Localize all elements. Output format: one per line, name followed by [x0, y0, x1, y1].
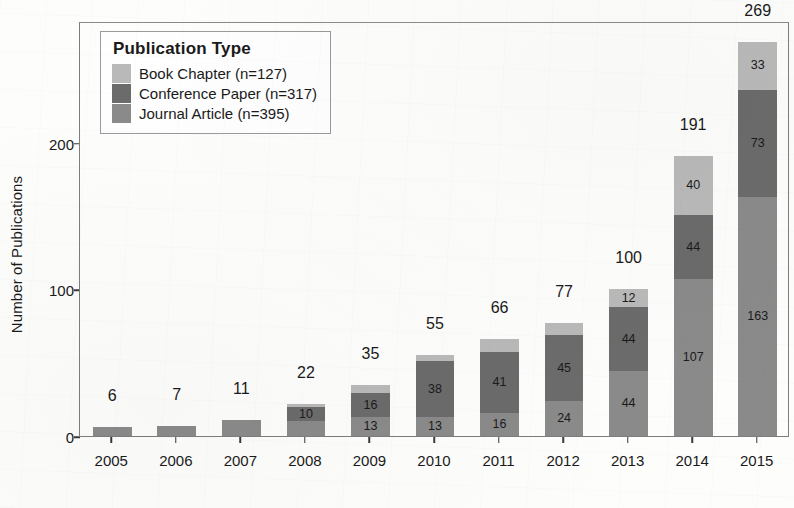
- x-tick-mark: [433, 437, 435, 443]
- bar-segment-conference[interactable]: 10: [287, 407, 326, 422]
- legend-item[interactable]: Journal Article (n=395): [112, 104, 317, 123]
- bar-segment-book[interactable]: [480, 339, 519, 352]
- x-tick-label: 2009: [353, 452, 386, 469]
- x-tick-label: 2007: [224, 452, 257, 469]
- bar-segment-value: 163: [747, 310, 768, 323]
- publication-type-stacked-bar-chart: Number of Publications 0100200 671110221…: [0, 0, 794, 508]
- bar-segment-journal[interactable]: 24: [545, 401, 584, 436]
- bar-segment-value: 107: [683, 351, 704, 364]
- legend-item-label: Book Chapter (n=127): [139, 65, 287, 82]
- bar-segment-conference[interactable]: 45: [545, 335, 584, 401]
- bar-group[interactable]: 1074440191: [674, 156, 713, 436]
- legend-swatch: [112, 104, 131, 123]
- x-tick-mark: [304, 437, 306, 443]
- bar-segment-conference[interactable]: 41: [480, 352, 519, 412]
- y-axis-title-label: Number of Publications: [9, 175, 26, 332]
- bar-segment-conference[interactable]: 44: [674, 215, 713, 280]
- bar-segment-book[interactable]: 33: [738, 42, 777, 90]
- bar-group[interactable]: 7: [157, 426, 196, 436]
- legend-item[interactable]: Conference Paper (n=317): [112, 84, 317, 103]
- bar-segment-value: 45: [557, 362, 571, 375]
- bar-segment-conference[interactable]: 38: [416, 361, 455, 417]
- y-tick-label: 0: [28, 429, 80, 446]
- legend-title: Publication Type: [113, 39, 317, 59]
- bar-group[interactable]: 131635: [351, 385, 390, 436]
- bar-total-label: 6: [108, 387, 117, 405]
- y-tick-label: 200: [28, 135, 80, 152]
- bar-total-label: 77: [555, 283, 573, 301]
- bar-segment-journal[interactable]: 44: [609, 371, 648, 436]
- bar-segment-journal[interactable]: [287, 421, 326, 436]
- bar-segment-journal[interactable]: [93, 427, 132, 436]
- x-axis-ticks: [79, 437, 789, 451]
- bar-segment-value: 13: [363, 420, 377, 433]
- legend-swatch: [112, 64, 131, 83]
- x-tick-label: 2008: [288, 452, 321, 469]
- bar-total-label: 35: [362, 345, 380, 363]
- bar-segment-journal[interactable]: [222, 420, 261, 436]
- bar-segment-value: 41: [493, 376, 507, 389]
- bar-total-label: 55: [426, 315, 444, 333]
- bar-segment-conference[interactable]: 16: [351, 393, 390, 416]
- x-tick-mark: [369, 437, 371, 443]
- x-tick-label: 2014: [675, 452, 708, 469]
- bar-segment-journal[interactable]: 163: [738, 197, 777, 436]
- bar-group[interactable]: 133855: [416, 355, 455, 436]
- x-tick-label: 2011: [482, 452, 514, 469]
- x-tick-label: 2013: [611, 452, 644, 469]
- bar-segment-value: 10: [299, 408, 313, 421]
- x-tick-mark: [756, 437, 758, 443]
- x-tick-label: 2006: [159, 452, 192, 469]
- bar-segment-book[interactable]: [287, 404, 326, 407]
- legend: Publication Type Book Chapter (n=127)Con…: [100, 31, 331, 134]
- bar-total-label: 7: [172, 386, 181, 404]
- bar-group[interactable]: 6: [93, 427, 132, 436]
- legend-item[interactable]: Book Chapter (n=127): [112, 64, 317, 83]
- legend-item-label: Journal Article (n=395): [139, 105, 290, 122]
- bar-total-label: 191: [680, 116, 707, 134]
- bar-segment-value: 73: [751, 137, 765, 150]
- legend-item-label: Conference Paper (n=317): [139, 85, 317, 102]
- bar-segment-value: 38: [428, 383, 442, 396]
- bar-segment-journal[interactable]: 13: [351, 417, 390, 436]
- x-tick-label: 2012: [546, 452, 579, 469]
- legend-items: Book Chapter (n=127)Conference Paper (n=…: [112, 64, 317, 123]
- bar-group[interactable]: 11: [222, 420, 261, 436]
- bar-segment-value: 24: [557, 412, 571, 425]
- bar-segment-book[interactable]: [545, 323, 584, 335]
- bar-segment-value: 16: [493, 418, 507, 431]
- x-tick-mark: [111, 437, 113, 443]
- x-axis-labels: 2005200620072008200920102011201220132014…: [79, 452, 789, 476]
- bar-segment-book[interactable]: [351, 385, 390, 394]
- bar-segment-journal[interactable]: 13: [416, 417, 455, 436]
- bar-segment-journal[interactable]: 107: [674, 279, 713, 436]
- bar-group[interactable]: 1022: [287, 404, 326, 436]
- bar-segment-value: 44: [622, 397, 636, 410]
- legend-swatch: [112, 84, 131, 103]
- bar-group[interactable]: 444412100: [609, 289, 648, 436]
- bar-group[interactable]: 164166: [480, 339, 519, 436]
- bar-segment-journal[interactable]: 16: [480, 413, 519, 436]
- y-tick-label: 100: [28, 282, 80, 299]
- bar-total-label: 11: [233, 380, 250, 398]
- bar-segment-conference[interactable]: 44: [609, 307, 648, 372]
- bar-segment-conference[interactable]: 73: [738, 90, 777, 197]
- bar-segment-book[interactable]: 40: [674, 156, 713, 215]
- x-tick-mark: [691, 437, 693, 443]
- bar-segment-value: 44: [686, 241, 700, 254]
- bar-group[interactable]: 1637333269: [738, 42, 777, 436]
- x-tick-mark: [562, 437, 564, 443]
- bar-segment-book[interactable]: 12: [609, 289, 648, 307]
- bar-segment-value: 40: [686, 179, 700, 192]
- bar-group[interactable]: 244577: [545, 323, 584, 436]
- bar-segment-journal[interactable]: [157, 426, 196, 436]
- bar-segment-book[interactable]: [416, 355, 455, 361]
- x-tick-mark: [175, 437, 177, 443]
- x-tick-label: 2005: [95, 452, 128, 469]
- bar-total-label: 269: [744, 2, 771, 20]
- bar-total-label: 22: [297, 364, 315, 382]
- bar-segment-value: 12: [622, 292, 636, 305]
- x-tick-mark: [498, 437, 500, 443]
- x-tick-label: 2015: [740, 452, 773, 469]
- x-tick-mark: [627, 437, 629, 443]
